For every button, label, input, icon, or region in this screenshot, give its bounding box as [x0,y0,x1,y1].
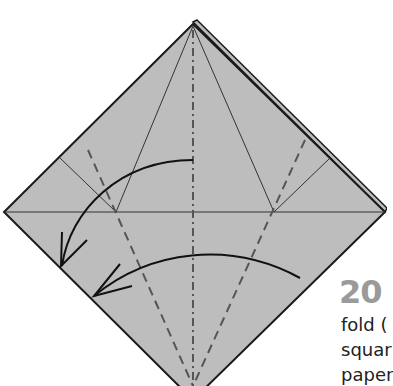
paper-diamond [4,24,385,386]
step-text-line: fold ( [341,312,393,337]
step-instructions: fold ( squar paper [341,312,393,386]
step-text-line: squar [341,337,393,362]
step-number: 20 [339,276,382,308]
step-text-line: paper [341,362,393,386]
